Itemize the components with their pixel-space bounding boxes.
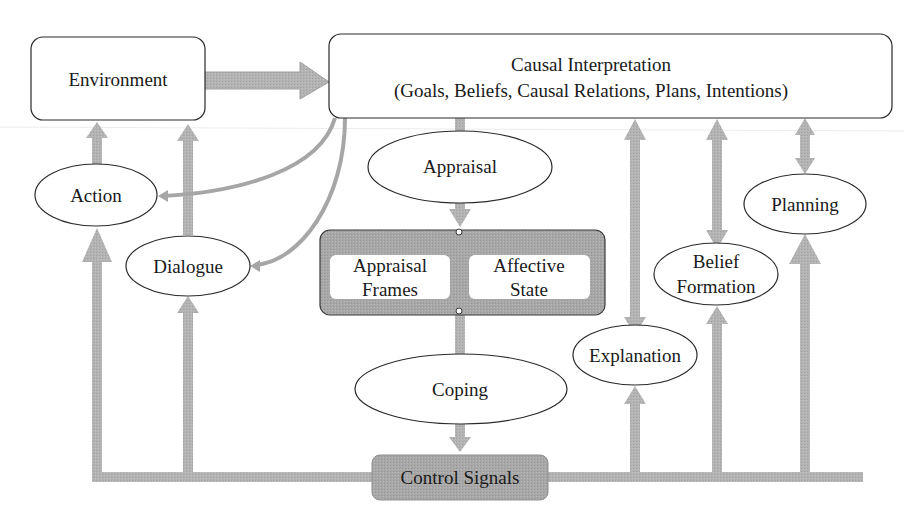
arrow-interpretation-belief <box>706 119 728 249</box>
arrow-appraisal-to-panel <box>449 202 471 227</box>
label-belief-formation-1: Belief <box>693 251 739 273</box>
label-causal-interpretation-title: Causal Interpretation <box>511 53 671 77</box>
label-affective-state-2: State <box>510 279 548 301</box>
connector-panel-coping <box>455 312 465 354</box>
label-explanation: Explanation <box>589 344 681 368</box>
label-affective-state-1: Affective <box>493 255 564 277</box>
label-belief-formation-2: Formation <box>676 276 755 298</box>
label-action: Action <box>70 184 122 208</box>
label-coping: Coping <box>432 378 488 402</box>
arrow-environment-to-interpretation <box>205 62 329 99</box>
label-appraisal: Appraisal <box>423 155 497 179</box>
label-appraisal-frames-1: Appraisal <box>353 255 427 277</box>
label-causal-interpretation-subtitle: (Goals, Beliefs, Causal Relations, Plans… <box>394 79 788 103</box>
label-environment: Environment <box>68 68 167 92</box>
arrow-action-to-environment <box>86 122 108 164</box>
arrow-dialogue-to-environment <box>177 124 199 235</box>
label-planning: Planning <box>771 193 839 217</box>
arrow-interpretation-planning <box>795 118 815 174</box>
label-dialogue: Dialogue <box>153 255 223 279</box>
label-control-signals: Control Signals <box>401 466 520 490</box>
arrow-interpretation-explanation <box>624 119 646 335</box>
arrow-coping-to-control <box>449 424 471 452</box>
label-appraisal-frames-2: Frames <box>362 279 418 301</box>
